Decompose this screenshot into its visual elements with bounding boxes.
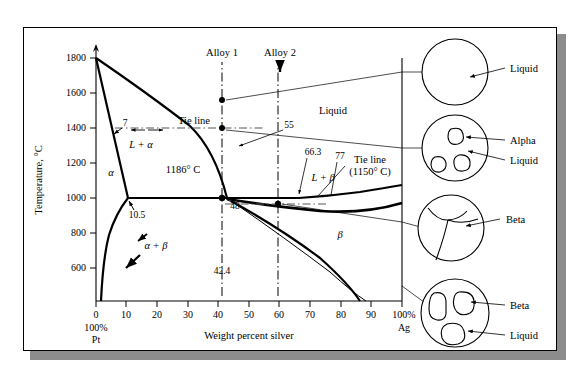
- y-tick-1600: 1600: [66, 87, 86, 98]
- alloy1-point-tieline: [219, 125, 225, 131]
- alloy-2-label: Alloy 2: [264, 47, 296, 58]
- composition-label-77: 77: [335, 151, 345, 161]
- inset-alpha-grain-2: [431, 157, 446, 173]
- inset-beta-liquid-label-beta: Beta: [510, 300, 530, 311]
- inset-beta-label: Beta: [506, 214, 526, 225]
- region-label-alpha: α: [108, 167, 114, 178]
- x-end-label-pt-pct: 100%: [84, 322, 107, 333]
- x-tick-60: 60: [274, 309, 284, 320]
- x-tick-100: 100%: [392, 309, 415, 320]
- eutectic-temperature-label: 1186° C: [166, 164, 200, 175]
- x-end-label-ag: Ag: [398, 322, 410, 333]
- alpha-plus-beta-arrow: [126, 255, 140, 268]
- inset-alpha-liquid-label: Liquid: [510, 155, 539, 166]
- alpha-solvus-curve: [101, 198, 128, 301]
- leader-to-inset-alpha-liquid: [226, 130, 428, 148]
- x-tick-marks: [96, 301, 402, 307]
- inset-beta-liquid-grain-1: [429, 293, 446, 320]
- inset-beta-circle: [418, 195, 484, 261]
- inset-beta-liquid: Beta Liquid: [421, 279, 539, 347]
- y-tick-1200: 1200: [66, 157, 86, 168]
- composition-label-7: 7: [123, 118, 128, 128]
- inset-liquid: Liquid: [422, 39, 539, 105]
- alloy-1-label: Alloy 1: [206, 47, 238, 58]
- liquidus-beta-curve: [227, 199, 402, 212]
- tie-line-beta-label-2: (1150° C): [349, 166, 391, 178]
- inset-alpha-grain-3: [454, 155, 470, 171]
- y-tick-1000: 1000: [66, 192, 86, 203]
- beta-solvus-curve: [231, 201, 360, 301]
- y-tick-600: 600: [71, 262, 86, 273]
- inset-alpha-liquid: Alpha Liquid: [422, 115, 539, 181]
- leader-to-inset-beta: [282, 204, 424, 228]
- x-tick-30: 30: [183, 309, 193, 320]
- y-tick-1400: 1400: [66, 122, 86, 133]
- alloy1-point-liquid: [219, 97, 225, 103]
- composition-55-leader: [239, 130, 283, 146]
- y-axis-label: Temperature, °C: [33, 145, 44, 214]
- x-tick-70: 70: [305, 309, 315, 320]
- inset-beta-liquid-grain-3: [441, 323, 465, 344]
- inset-alpha-label: Alpha: [510, 135, 536, 146]
- y-tick-marks: [90, 58, 96, 268]
- x-tick-50: 50: [244, 309, 254, 320]
- x-tick-0: 0: [94, 309, 99, 320]
- region-label-l-plus-alpha: L + α: [128, 139, 153, 150]
- inset-alpha-liquid-circle: [422, 115, 488, 181]
- x-axis-label: Weight percent silver: [204, 330, 294, 341]
- composition-10-5-leader: [129, 201, 134, 210]
- y-tick-800: 800: [71, 227, 86, 238]
- inset-beta-liquid-label-liquid: Liquid: [510, 330, 539, 341]
- tie-line-beta-label-1: Tie line: [354, 154, 386, 165]
- y-tick-1800: 1800: [66, 52, 86, 63]
- composition-label-55: 55: [284, 120, 294, 130]
- tie-line-top-label: Tie line: [178, 115, 210, 126]
- region-label-beta: β: [336, 229, 343, 240]
- alloy1-point-eutectic: [219, 195, 225, 201]
- region-label-liquid: Liquid: [319, 105, 348, 116]
- phase-diagram-svg: 1800 1600 1400 1200 1000 800 600 Tempera…: [0, 0, 588, 388]
- x-tick-80: 80: [336, 309, 346, 320]
- x-tick-90: 90: [366, 309, 376, 320]
- x-end-label-pt: Pt: [92, 334, 101, 345]
- inset-liquid-circle: [422, 39, 488, 105]
- inset-liquid-label: Liquid: [510, 63, 539, 74]
- composition-7-leader: [114, 128, 122, 134]
- beta-solvus-secondary: [233, 202, 366, 301]
- region-label-alpha-plus-beta: α + β: [144, 240, 168, 251]
- solidus-beta-curve: [227, 185, 402, 198]
- region-label-l-plus-beta: L + β: [310, 172, 335, 183]
- alloy2-point-tieline: [275, 201, 281, 207]
- composition-label-10-5: 10.5: [129, 210, 146, 220]
- inset-alpha-grain-1: [448, 128, 463, 144]
- composition-66-3-leader: [299, 158, 307, 194]
- composition-label-66-3: 66.3: [305, 147, 322, 157]
- x-tick-40: 40: [213, 309, 223, 320]
- figure-page: 1800 1600 1400 1200 1000 800 600 Tempera…: [0, 0, 588, 388]
- composition-label-42-4: 42.4: [214, 266, 231, 276]
- inset-beta-liquid-grain-2: [453, 292, 474, 315]
- x-tick-10: 10: [121, 309, 131, 320]
- leader-to-inset-liquid: [226, 72, 432, 100]
- x-tick-20: 20: [152, 309, 162, 320]
- inset-beta: Beta: [418, 195, 526, 261]
